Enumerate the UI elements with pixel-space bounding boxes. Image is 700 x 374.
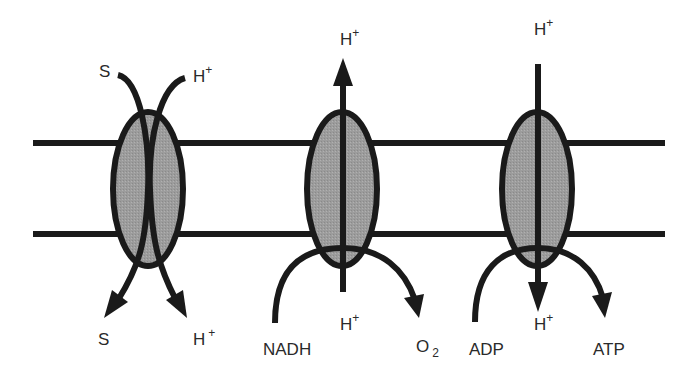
label-h-in: H+: [340, 311, 359, 334]
atp-synthase-protein: H+ H+ ADP ATP: [469, 16, 625, 359]
symporter-protein: S H+ S H+: [98, 62, 215, 349]
respiratory-pump-protein: H+ H+ NADH O2: [263, 26, 439, 360]
proton-down-arrowhead-icon: [528, 282, 548, 312]
label-h-out: H+: [534, 16, 553, 39]
label-adp: ADP: [469, 340, 504, 359]
membrane-transport-diagram: S H+ S H+ H+ H+ NADH O2 H+ H+ ADP ATP: [0, 0, 700, 374]
label-h-out: H+: [340, 26, 359, 49]
label-o2: O2: [416, 337, 439, 360]
label-h-top: H+: [193, 63, 212, 86]
proton-up-arrowhead-icon: [333, 58, 353, 86]
label-s-top: S: [99, 62, 110, 81]
atp-arrowhead-icon: [592, 292, 612, 318]
label-atp: ATP: [593, 340, 625, 359]
label-h-in: H+: [534, 311, 553, 334]
h-arrowhead-icon: [166, 290, 187, 318]
label-s-bottom: S: [98, 330, 109, 349]
label-nadh: NADH: [263, 340, 311, 359]
o2-arrowhead-icon: [404, 294, 424, 318]
label-h-bottom: H+: [193, 326, 215, 349]
